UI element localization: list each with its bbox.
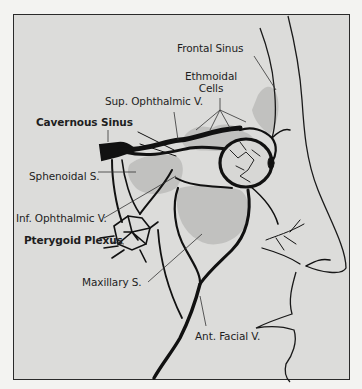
- label-ethmoidal: Ethmoidal: [180, 71, 242, 82]
- label-pterygoid-plexus: Pterygoid Plexus: [24, 235, 123, 246]
- leader-maxillary: [148, 234, 202, 282]
- anatomy-illustration: [0, 0, 362, 389]
- label-ant-facial-v: Ant. Facial V.: [195, 331, 260, 342]
- label-cavernous-sinus: Cavernous Sinus: [36, 117, 133, 128]
- leader-ant-facial: [200, 296, 206, 326]
- label-maxillary-s: Maxillary S.: [82, 277, 142, 288]
- face-profile: [256, 16, 346, 382]
- maxillary-sinus-region: [177, 185, 248, 244]
- label-cells: Cells: [180, 83, 242, 94]
- leader-sup-ophthalmic: [174, 112, 178, 140]
- label-inf-ophthalmic-v: Inf. Ophthalmic V.: [16, 213, 107, 224]
- label-frontal-sinus: Frontal Sinus: [177, 43, 243, 54]
- label-sup-ophthalmic-v: Sup. Ophthalmic V.: [105, 96, 203, 107]
- label-sphenoidal-s: Sphenoidal S.: [29, 171, 100, 182]
